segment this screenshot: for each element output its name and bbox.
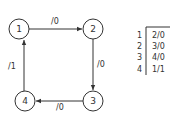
edge-4-1: /1: [8, 40, 24, 91]
table-next: 2/0: [152, 31, 165, 40]
edge-label: /0: [97, 60, 105, 69]
state-diagram: /0 /0 /0 /1 1 2 3 4 1 2/0 2 3/0 3 4/0 4: [0, 0, 182, 123]
node-label: 2: [90, 24, 96, 34]
table-next: 3/0: [152, 42, 165, 51]
node-label: 4: [22, 96, 28, 106]
table-state: 3: [137, 53, 142, 62]
node-label: 1: [16, 24, 22, 34]
table-next: 1/1: [152, 65, 165, 74]
table-next: 4/0: [152, 53, 165, 62]
edge-label: /1: [8, 62, 16, 71]
edge-3-4: /0: [36, 101, 83, 112]
node-label: 3: [90, 96, 96, 106]
table-state: 2: [137, 42, 142, 51]
node-2: 2: [83, 19, 103, 39]
edge-1-2: /0: [29, 17, 82, 29]
node-1: 1: [9, 19, 29, 39]
transition-table: 1 2/0 2 3/0 3 4/0 4 1/1: [137, 27, 170, 75]
table-state: 1: [137, 31, 142, 40]
node-4: 4: [15, 91, 35, 111]
node-3: 3: [83, 91, 103, 111]
edge-2-3: /0: [93, 39, 105, 90]
table-state: 4: [137, 65, 142, 74]
edge-label: /0: [51, 17, 59, 26]
edge-label: /0: [56, 103, 64, 112]
